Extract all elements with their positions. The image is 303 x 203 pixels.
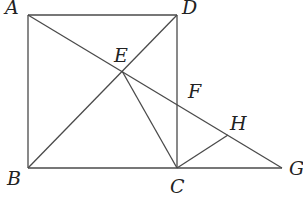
segment-CH (177, 135, 228, 168)
label-G: G (289, 157, 303, 179)
segment-EC (122, 71, 177, 168)
label-F: F (187, 80, 202, 102)
label-A: A (3, 0, 19, 18)
geometry-figure: A D E F H B C G (0, 0, 303, 203)
label-E: E (113, 44, 128, 66)
label-C: C (170, 175, 185, 197)
label-H: H (229, 112, 247, 134)
label-B: B (6, 167, 21, 189)
label-D: D (181, 0, 197, 18)
